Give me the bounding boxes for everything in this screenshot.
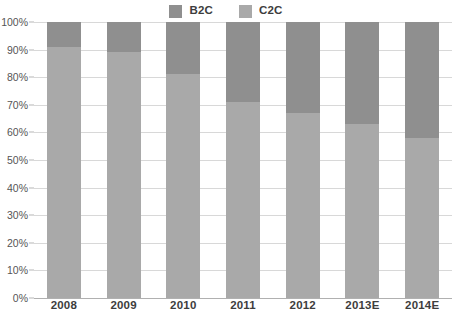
bar-segment-b2c-2008[interactable]: [47, 22, 81, 47]
legend-label-b2c: B2C: [189, 5, 213, 17]
bar-slot-2009: [94, 22, 154, 298]
x-tick-label-2014E: 2014E: [392, 300, 452, 318]
bar-group: [34, 22, 452, 298]
y-tick-label-100: 100%: [1, 17, 28, 28]
cropped-footer-artifact: [4, 320, 56, 326]
bar-slot-2010: [153, 22, 213, 298]
x-axis: 200820092010201120122013E2014E: [34, 300, 452, 318]
legend-swatch-c2c: [239, 5, 252, 18]
bar-segment-c2c-2014E[interactable]: [405, 138, 439, 298]
bar-segment-c2c-2008[interactable]: [47, 47, 81, 298]
stacked-bar-2011[interactable]: [226, 22, 260, 298]
stacked-bar-2013E[interactable]: [345, 22, 379, 298]
stacked-bar-2008[interactable]: [47, 22, 81, 298]
x-tick-label-2008: 2008: [34, 300, 94, 318]
bar-segment-b2c-2013E[interactable]: [345, 22, 379, 124]
bar-segment-c2c-2010[interactable]: [166, 74, 200, 298]
bar-segment-b2c-2014E[interactable]: [405, 22, 439, 138]
bar-segment-c2c-2013E[interactable]: [345, 124, 379, 298]
bar-segment-c2c-2011[interactable]: [226, 102, 260, 298]
x-tick-label-2010: 2010: [153, 300, 213, 318]
bar-segment-c2c-2012[interactable]: [286, 113, 320, 298]
stacked-bar-2014E[interactable]: [405, 22, 439, 298]
x-tick-label-2009: 2009: [94, 300, 154, 318]
bar-slot-2008: [34, 22, 94, 298]
stacked-bar-2010[interactable]: [166, 22, 200, 298]
y-tick-label-60: 60%: [7, 127, 28, 138]
plot-area: [34, 22, 452, 298]
y-tick-label-40: 40%: [7, 182, 28, 193]
y-tick-label-30: 30%: [7, 210, 28, 221]
bar-segment-b2c-2011[interactable]: [226, 22, 260, 102]
bar-slot-2012: [273, 22, 333, 298]
bar-segment-b2c-2010[interactable]: [166, 22, 200, 74]
y-tick-label-80: 80%: [7, 72, 28, 83]
legend-swatch-b2c: [169, 5, 182, 18]
y-tick-label-90: 90%: [7, 44, 28, 55]
bar-slot-2013E: [333, 22, 393, 298]
bar-slot-2014E: [392, 22, 452, 298]
chart-legend: B2C C2C: [0, 2, 452, 20]
x-tick-label-2011: 2011: [213, 300, 273, 318]
legend-item-b2c[interactable]: B2C: [169, 5, 213, 18]
plot-wrapper: 100%90%80%70%60%50%40%30%20%10%0%: [0, 22, 452, 298]
y-tick-label-20: 20%: [7, 238, 28, 249]
bar-slot-2011: [213, 22, 273, 298]
legend-item-c2c[interactable]: C2C: [239, 5, 283, 18]
y-tick-label-50: 50%: [7, 155, 28, 166]
y-tick-label-70: 70%: [7, 100, 28, 111]
bar-segment-c2c-2009[interactable]: [107, 52, 141, 298]
y-tick-label-10: 10%: [7, 265, 28, 276]
bar-segment-b2c-2012[interactable]: [286, 22, 320, 113]
stacked-bar-2012[interactable]: [286, 22, 320, 298]
legend-label-c2c: C2C: [259, 5, 283, 17]
x-tick-label-2012: 2012: [273, 300, 333, 318]
y-axis: 100%90%80%70%60%50%40%30%20%10%0%: [0, 22, 34, 298]
stacked-bar-2009[interactable]: [107, 22, 141, 298]
bar-segment-b2c-2009[interactable]: [107, 22, 141, 52]
y-tick-label-0: 0%: [13, 293, 28, 304]
stacked-bar-chart: B2C C2C 100%90%80%70%60%50%40%30%20%10%0…: [0, 0, 452, 328]
x-tick-label-2013E: 2013E: [333, 300, 393, 318]
